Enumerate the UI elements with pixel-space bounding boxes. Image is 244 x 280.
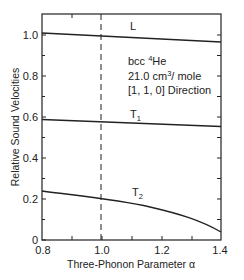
series-L-label: L (130, 20, 136, 32)
series-T1-line (42, 120, 221, 127)
series-L-line (42, 33, 221, 42)
x-tick-label: 1.4 (212, 244, 227, 256)
x-tick-label: 1.2 (154, 244, 169, 256)
x-axis-label: Three-Phonon Parameter α (67, 258, 195, 270)
annotation-material: bcc 4He (128, 54, 166, 67)
x-ticks-bottom (72, 236, 192, 240)
annotation-direction: [1, 1, 0] Direction (128, 84, 211, 96)
y-axis-label: Relative Sound Velocities (9, 68, 21, 187)
y-tick-label: 1.0 (23, 29, 38, 41)
annotation-volume: 21.0 cm3/ mole (128, 69, 201, 82)
x-tick-label: 1.0 (94, 244, 109, 256)
y-tick-label: 0.4 (23, 152, 38, 164)
y-tick-label: 0.8 (23, 70, 38, 82)
y-ticks-right (217, 35, 221, 220)
series-T1-label: T1 (130, 108, 141, 123)
y-tick-label: 0.6 (23, 111, 38, 123)
x-tick-label: 0.8 (35, 244, 50, 256)
y-tick-label: 0.2 (23, 193, 38, 205)
series-T2-label: T2 (132, 186, 143, 201)
chart: 0 0.2 0.4 0.6 0.8 1.0 0.8 1.0 1.2 1.4 Th… (0, 0, 244, 280)
plot-frame (42, 14, 221, 240)
